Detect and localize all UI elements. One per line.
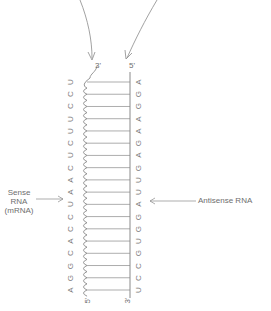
antisense-3prime-label: 3' (123, 298, 132, 304)
sense-base: U (66, 150, 76, 160)
sense-base: G (66, 273, 76, 283)
antisense-base: G (134, 138, 144, 148)
sense-5prime-label: 5' (83, 298, 92, 304)
antisense-base: A (134, 150, 144, 160)
sense-base: C (66, 224, 76, 234)
antisense-base: G (134, 212, 144, 222)
sense-base: C (66, 163, 76, 173)
antisense-base: C (134, 261, 144, 271)
sense-label-line-2: RNA (2, 197, 36, 206)
antisense-base: U (134, 175, 144, 185)
sense-base: C (66, 101, 76, 111)
sense-3prime-label: 3' (95, 61, 101, 70)
sense-label-line-1: Sense (2, 188, 36, 197)
sense-label-line-3: (mRNA) (2, 206, 36, 215)
sense-base: G (66, 261, 76, 271)
sense-base: A (66, 175, 76, 185)
sense-base: C (66, 138, 76, 148)
sense-base: C (66, 248, 76, 258)
antisense-base: G (134, 89, 144, 99)
antisense-base: A (134, 77, 144, 87)
sense-rna-label: Sense RNA (mRNA) (2, 188, 36, 215)
antisense-base: U (134, 187, 144, 197)
antisense-base: G (134, 224, 144, 234)
antisense-base: A (134, 126, 144, 136)
sense-base: C (66, 89, 76, 99)
sense-base: A (66, 285, 76, 295)
antisense-base: G (134, 101, 144, 111)
sense-base: U (66, 126, 76, 136)
antisense-base: U (134, 285, 144, 295)
sense-base: U (66, 114, 76, 124)
rna-duplex-diagram: Sense RNA (mRNA) Antisense RNA 3' 5' 5' … (0, 0, 271, 311)
antisense-base: A (134, 199, 144, 209)
antisense-base: G (134, 163, 144, 173)
antisense-base: U (134, 236, 144, 246)
sense-base: A (66, 187, 76, 197)
antisense-base: G (134, 248, 144, 258)
sense-base: U (66, 199, 76, 209)
antisense-rna-label: Antisense RNA (198, 196, 270, 205)
sense-base: C (66, 212, 76, 222)
pointer-arrow-sense-3prime (80, 0, 92, 58)
pointer-arrowhead-sense (88, 52, 95, 60)
sense-backbone (84, 66, 98, 296)
sense-base: U (66, 77, 76, 87)
pointer-arrow-antisense-5prime (127, 0, 157, 58)
antisense-base: A (134, 114, 144, 124)
antisense-base: C (134, 273, 144, 283)
sense-base: A (66, 236, 76, 246)
antisense-5prime-label: 5' (129, 61, 135, 70)
